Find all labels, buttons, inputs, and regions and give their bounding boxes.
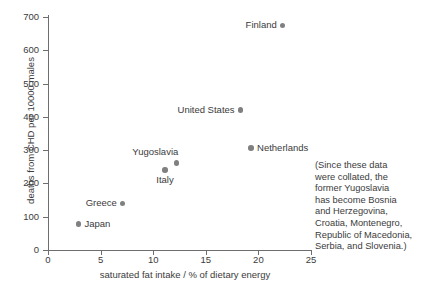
footnote-line: former Yugoslavia [315,183,430,195]
x-tick-label: 0 [36,255,60,265]
footnote-line: were collated, the [315,172,430,184]
data-point-label: United States [178,104,235,115]
x-tick-label: 20 [246,255,270,265]
data-point-label: Japan [85,218,111,229]
footnote-line: Republic of Macedonia, [315,230,430,242]
plot-area [48,17,282,250]
data-point[interactable] [162,167,168,173]
x-tick-label: 25 [299,255,323,265]
footnote-text: (Since these datawere collated, theforme… [315,160,430,253]
footnote-line: has become Bosnia [315,195,430,207]
y-axis-title: deaths from CHD per 10000 males [25,41,36,221]
data-point-label: Yugoslavia [132,146,178,157]
x-axis-line [48,250,311,251]
x-axis-title: saturated fat intake / % of dietary ener… [60,269,310,280]
footnote-line: Croatia, Montenegro, [315,218,430,230]
x-tick-label: 15 [194,255,218,265]
footnote-line: Serbia, and Slovenia.) [315,241,430,253]
data-point-label: Netherlands [257,142,308,153]
data-point[interactable] [76,221,82,227]
data-point[interactable] [174,160,180,166]
data-point-label: Italy [156,174,173,185]
data-point-label: Greece [86,197,117,208]
footnote-line: (Since these data [315,160,430,172]
x-tick-label: 5 [89,255,113,265]
data-point[interactable] [248,145,254,151]
data-point-label: Finland [246,19,277,30]
data-point[interactable] [280,23,286,29]
y-tick-label: 0 [9,245,39,255]
scatter-chart-figure: 0100200300400500600700 0510152025 deaths… [0,0,430,287]
y-tick-label: 700 [9,12,39,22]
x-tick-label: 10 [141,255,165,265]
footnote-line: and Herzegovina, [315,206,430,218]
